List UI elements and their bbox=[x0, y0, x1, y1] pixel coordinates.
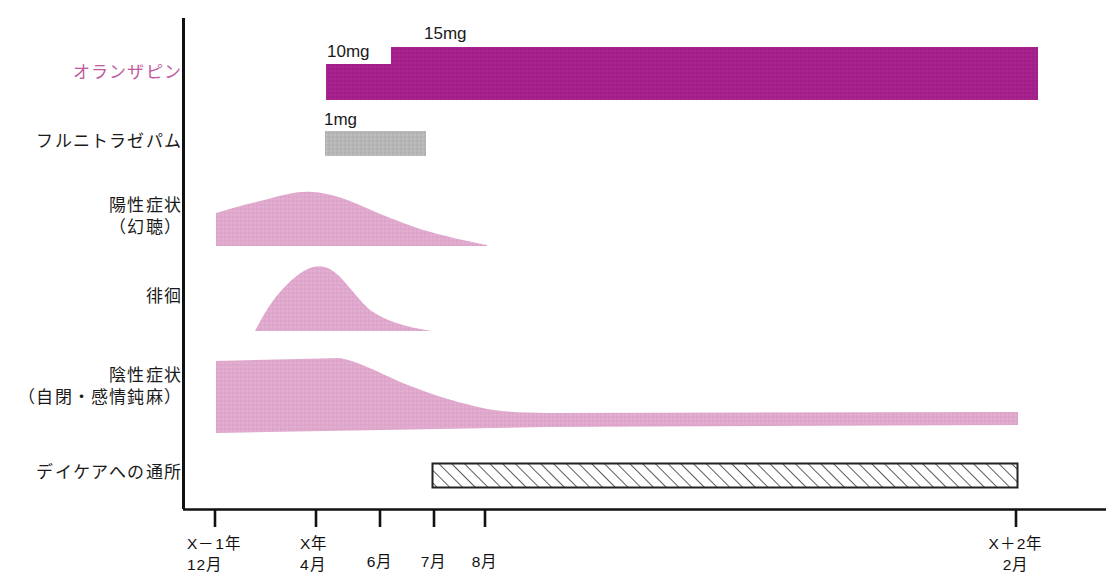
day-care-attendance-bar bbox=[433, 464, 1018, 488]
negative-symptoms-curve bbox=[216, 358, 1018, 433]
x-axis-ticks bbox=[215, 510, 1016, 527]
chart-graphics-layer bbox=[0, 0, 1120, 588]
olanzapine-dose-bar bbox=[326, 47, 1038, 100]
flunitrazepam-dose-bar bbox=[325, 131, 426, 156]
clinical-course-chart: オランザピン フルニトラゼパム 陽性症状 （幻聴） 徘徊 陰性症状 （自閉・感情… bbox=[0, 0, 1120, 588]
positive-symptoms-curve bbox=[216, 192, 487, 246]
wandering-curve bbox=[255, 266, 432, 331]
